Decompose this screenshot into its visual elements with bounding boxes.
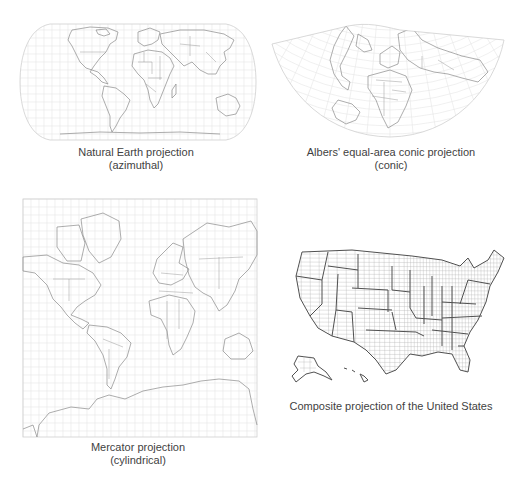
panel-us-composite: Composite projection of the United State…	[262, 190, 524, 482]
albers-map	[272, 20, 508, 140]
natural-earth-map	[20, 22, 256, 142]
us-composite-caption: Composite projection of the United State…	[262, 400, 520, 413]
mercator-caption: Mercator projection (cylindrical)	[0, 441, 276, 467]
caption-subtitle: (azimuthal)	[0, 159, 272, 172]
caption-subtitle: (conic)	[262, 159, 520, 172]
caption-title: Mercator projection	[0, 441, 276, 454]
caption-title: Natural Earth projection	[0, 146, 272, 159]
albers-caption: Albers' equal-area conic projection (con…	[262, 146, 520, 172]
panel-natural-earth: Natural Earth projection (azimuthal)	[0, 0, 262, 182]
caption-subtitle: (cylindrical)	[0, 454, 276, 467]
mercator-map	[23, 199, 257, 437]
natural-earth-caption: Natural Earth projection (azimuthal)	[0, 146, 272, 172]
panel-albers: Albers' equal-area conic projection (con…	[262, 0, 524, 182]
us-composite-map	[292, 246, 508, 388]
panel-mercator: Mercator projection (cylindrical)	[0, 190, 262, 482]
caption-title: Albers' equal-area conic projection	[262, 146, 520, 159]
caption-title: Composite projection of the United State…	[262, 400, 520, 413]
